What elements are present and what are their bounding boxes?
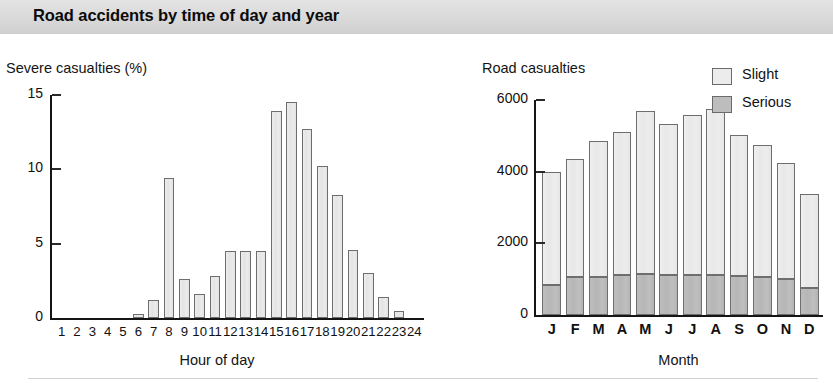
legend-swatch-serious <box>712 96 732 113</box>
right-chart-x-tick-label: M <box>588 321 610 337</box>
bar <box>225 251 236 318</box>
bar <box>194 294 205 318</box>
right-chart-y-tick <box>536 171 545 173</box>
bar-serious <box>800 288 819 315</box>
left-chart-y-tick <box>52 168 61 170</box>
bar <box>348 250 359 318</box>
page-title: Road accidents by time of day and year <box>33 6 339 25</box>
right-chart-x-tick-label: O <box>751 321 773 337</box>
title-band: Road accidents by time of day and year <box>0 0 833 34</box>
bar-serious <box>753 277 772 315</box>
bar <box>256 251 267 318</box>
bar-serious <box>589 277 608 315</box>
bar <box>317 166 328 318</box>
bar-slight <box>566 159 585 277</box>
right-chart-y-tick <box>536 99 545 101</box>
bar-slight <box>683 115 702 274</box>
bar-serious <box>730 276 749 315</box>
footer-divider <box>28 378 818 379</box>
bar-slight <box>589 141 608 277</box>
legend-label: Serious <box>742 94 791 110</box>
bar-serious <box>542 285 561 315</box>
left-chart-x-tick-label: 24 <box>403 324 425 339</box>
left-chart-y-tick <box>52 94 61 96</box>
bar-serious <box>636 274 655 315</box>
bar <box>210 276 221 318</box>
right-chart-y-tick-label: 4000 <box>472 162 528 178</box>
bar <box>332 195 343 318</box>
bar-serious <box>706 275 725 315</box>
right-chart-y-tick-label: 2000 <box>472 233 528 249</box>
bar-serious <box>777 279 796 315</box>
right-chart-x-tick-label: F <box>564 321 586 337</box>
bar <box>378 297 389 318</box>
right-chart-y-tick-label: 0 <box>472 305 528 321</box>
bar-slight <box>706 109 725 275</box>
bar-slight <box>730 135 749 276</box>
bar <box>286 102 297 318</box>
left-chart-y-tick <box>52 243 61 245</box>
right-chart-x-tick-label: J <box>541 321 563 337</box>
bar <box>240 251 251 318</box>
right-chart-x-tick-label: A <box>705 321 727 337</box>
bar-serious <box>659 275 678 315</box>
left-chart-x-axis-title: Hour of day <box>0 352 434 368</box>
right-chart-x-tick-label: A <box>611 321 633 337</box>
right-chart-x-tick-label: S <box>728 321 750 337</box>
bar-slight <box>777 163 796 279</box>
bar-slight <box>753 145 772 277</box>
bar <box>179 279 190 318</box>
right-chart-x-tick-label: J <box>658 321 680 337</box>
left-chart-y-tick-label: 10 <box>0 159 43 175</box>
bar <box>271 111 282 318</box>
bar <box>394 311 405 318</box>
right-chart-y-axis-title: Road casualties <box>482 60 585 76</box>
right-chart-x-tick-label: J <box>681 321 703 337</box>
legend-label: Slight <box>742 66 778 82</box>
right-chart-y-tick <box>536 242 545 244</box>
right-chart-x-tick-label: M <box>634 321 656 337</box>
legend-swatch-slight <box>712 68 732 85</box>
right-chart-y-axis-line <box>534 100 536 317</box>
right-chart-x-axis-line <box>534 315 823 317</box>
left-chart-x-axis-line <box>50 318 424 320</box>
bar-slight <box>542 172 561 286</box>
left-chart-y-tick-label: 0 <box>0 308 43 324</box>
left-chart-y-axis-line <box>50 95 52 320</box>
right-chart-y-tick-label: 6000 <box>472 90 528 106</box>
bar-slight <box>613 132 632 275</box>
bar-slight <box>659 124 678 275</box>
right-chart-x-axis-title: Month <box>534 352 823 368</box>
bar <box>148 300 159 318</box>
left-chart-y-tick-label: 5 <box>0 234 43 250</box>
bar-serious <box>566 277 585 315</box>
left-chart-y-tick-label: 15 <box>0 85 43 101</box>
bar-serious <box>683 275 702 315</box>
bar <box>164 178 175 318</box>
left-chart-y-axis-title: Severe casualties (%) <box>6 60 147 76</box>
bar <box>302 129 313 318</box>
bar-slight <box>636 111 655 274</box>
right-chart-x-tick-label: D <box>798 321 820 337</box>
right-chart-x-tick-label: N <box>775 321 797 337</box>
bar-serious <box>613 275 632 315</box>
bar <box>363 273 374 318</box>
bar-slight <box>800 194 819 288</box>
